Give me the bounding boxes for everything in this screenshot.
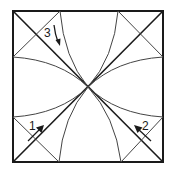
- step-label-2: 2: [142, 119, 149, 133]
- step-label-1: 1: [29, 119, 36, 133]
- step-label-3: 3: [44, 26, 51, 40]
- arc-top-left-horizontal: [13, 57, 88, 87]
- arrow-down-icon: [54, 25, 61, 46]
- folding-diagram: 3 1 2: [0, 0, 170, 173]
- arc-bottom-right-vertical: [88, 87, 121, 162]
